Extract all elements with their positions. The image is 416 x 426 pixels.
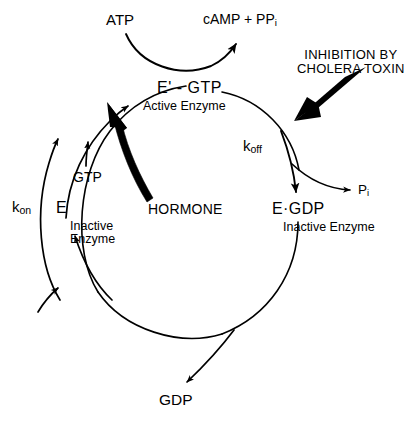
gtp-cycle-diagram: ATP cAMP + PPi E' - GTP Active Enzyme IN… (0, 0, 416, 426)
label-free-enzyme: E (56, 200, 67, 217)
arc-active-to-inactive (222, 92, 299, 170)
k-off-base: k (243, 137, 251, 154)
arc-left-to-active (82, 86, 186, 292)
label-hormone: HORMONE (148, 202, 223, 217)
label-camp-subscript: i (275, 17, 277, 28)
label-inhibition-cholera-toxin: INHIBITION BY CHOLERA TOXIN (297, 48, 405, 75)
pi-base: P (358, 182, 367, 197)
label-active-enzyme-caption: Active Enzyme (143, 100, 226, 113)
label-inactive-enzyme-caption-left: Inactive Enzyme (70, 220, 115, 246)
label-gdp: GDP (159, 392, 193, 408)
label-atp: ATP (106, 12, 134, 28)
arc-bottom-to-left (98, 292, 222, 338)
label-k-off: koff (243, 138, 262, 155)
arc-inactive-to-bottom (222, 222, 298, 334)
label-gtp: GTP (73, 170, 102, 185)
label-camp-text: cAMP + PP (203, 11, 275, 27)
arrow-atp-to-camp (126, 34, 236, 71)
label-k-on: kon (12, 199, 31, 216)
inactive-left-line-2: Enzyme (70, 233, 115, 246)
inhibition-line-1: INHIBITION BY (297, 48, 405, 62)
label-inactive-complex: E·GDP (272, 201, 325, 218)
label-active-complex: E' - GTP (157, 80, 222, 97)
k-off-subscript: off (251, 143, 262, 155)
arrow-hormone (114, 122, 153, 202)
label-camp-ppi: cAMP + PPi (203, 12, 277, 28)
inhibition-line-2: CHOLERA TOXIN (297, 62, 405, 76)
pi-subscript: i (367, 187, 369, 198)
k-on-base: k (12, 198, 20, 215)
arrow-to-pi (292, 164, 350, 190)
arrow-kon-outer-up (41, 139, 60, 300)
label-pi: Pi (358, 183, 369, 198)
arrow-gtp-in (86, 142, 88, 166)
arrow-kon-outer-lower-head (38, 288, 58, 312)
k-on-subscript: on (20, 204, 32, 216)
label-inactive-enzyme-caption-right: Inactive Enzyme (283, 221, 375, 234)
